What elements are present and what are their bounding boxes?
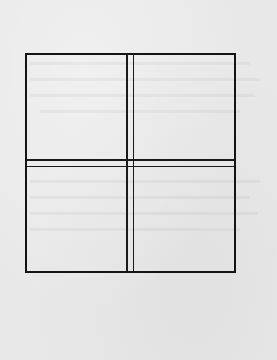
horizontal-mullion-top-line <box>27 159 234 161</box>
vertical-mullion-right-line <box>133 55 135 271</box>
pane-bottom-left <box>27 166 127 271</box>
pane-top-left <box>27 55 127 159</box>
horizontal-mullion-bottom-line <box>27 166 234 168</box>
pane-top-right <box>134 55 234 159</box>
vertical-mullion-left-line <box>126 55 128 271</box>
window-frame <box>25 53 236 273</box>
pane-bottom-right <box>134 166 234 271</box>
